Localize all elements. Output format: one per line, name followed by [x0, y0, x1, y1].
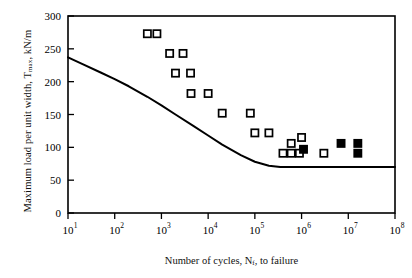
- x-axis-title-post: , to failure: [255, 255, 298, 266]
- data-point-open-square: [251, 129, 258, 136]
- y-axis-tick-label: 50: [50, 174, 62, 186]
- x-axis-title-pre: Number of cycles, N: [165, 255, 252, 266]
- data-point-open-square: [247, 110, 254, 117]
- x-axis-tick-exponent: 2: [120, 221, 124, 230]
- x-axis-tick-label: 10: [390, 224, 402, 236]
- y-axis-tick-label: 250: [45, 43, 62, 55]
- x-axis-tick-label: 10: [109, 224, 121, 236]
- y-axis-tick-label: 200: [45, 76, 62, 88]
- data-point-open-square: [288, 150, 295, 157]
- data-point-open-square: [187, 70, 194, 77]
- y-axis-tick-label: 0: [56, 207, 62, 219]
- data-point-filled-square: [354, 140, 361, 147]
- x-axis-tick-exponent: 6: [307, 221, 311, 230]
- y-axis-title-post: , kN/m: [22, 30, 33, 60]
- x-axis-tick-label: 10: [343, 224, 355, 236]
- x-axis-tick-label: 10: [249, 224, 261, 236]
- design-curve: [68, 57, 395, 167]
- x-axis-tick-label: 10: [296, 224, 308, 236]
- data-point-open-square: [205, 90, 212, 97]
- x-axis-tick-label: 10: [203, 224, 215, 236]
- data-point-open-square: [172, 70, 179, 77]
- plot-frame: [68, 16, 395, 213]
- data-point-filled-square: [337, 140, 344, 147]
- x-axis-tick-exponent: 4: [214, 221, 218, 230]
- x-axis-tick-exponent: 3: [167, 221, 171, 230]
- x-axis-tick-label: 10: [63, 224, 75, 236]
- y-axis-tick-label: 150: [45, 109, 62, 121]
- x-axis-tick-label: 10: [156, 224, 168, 236]
- y-axis-title-subscript: max: [26, 60, 34, 72]
- data-point-filled-square: [354, 150, 361, 157]
- data-point-open-square: [265, 129, 272, 136]
- data-point-open-square: [279, 150, 286, 157]
- data-point-filled-square: [300, 146, 307, 153]
- x-axis-title: Number of cycles, Nf, to failure: [68, 255, 395, 267]
- y-axis-title: Maximum load per unit width, Tmax, kN/m: [22, 21, 34, 221]
- x-axis-tick-exponent: 8: [401, 221, 405, 230]
- x-axis-tick-exponent: 1: [74, 221, 78, 230]
- scatter-plot-canvas: 0501001502002503001011021031041051061071…: [0, 0, 412, 278]
- data-point-open-square: [219, 110, 226, 117]
- data-point-open-square: [144, 30, 151, 37]
- data-point-open-square: [153, 30, 160, 37]
- data-point-open-square: [187, 90, 194, 97]
- data-point-open-square: [179, 50, 186, 57]
- y-axis-tick-label: 300: [45, 10, 62, 22]
- figure-chart: 0501001502002503001011021031041051061071…: [0, 0, 412, 278]
- data-point-open-square: [166, 50, 173, 57]
- y-axis-tick-label: 100: [45, 141, 62, 153]
- data-point-open-square: [298, 134, 305, 141]
- x-axis-tick-exponent: 7: [354, 221, 358, 230]
- y-axis-title-pre: Maximum load per unit width, T: [22, 72, 33, 212]
- data-point-open-square: [320, 150, 327, 157]
- data-point-open-square: [288, 140, 295, 147]
- x-axis-tick-exponent: 5: [260, 221, 264, 230]
